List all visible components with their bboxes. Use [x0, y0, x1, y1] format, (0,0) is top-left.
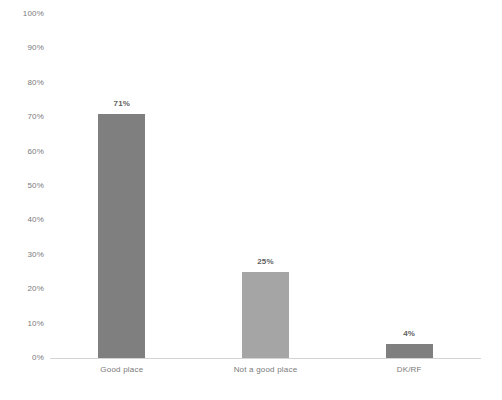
y-axis-tick-label: 20%: [0, 285, 44, 293]
bar-value-label: 71%: [98, 100, 145, 108]
y-axis-tick-label: 70%: [0, 113, 44, 121]
bar-group: 25%: [242, 0, 289, 358]
bar[interactable]: [98, 114, 145, 358]
bar-value-label: 25%: [242, 258, 289, 266]
bar[interactable]: [386, 344, 433, 358]
bar-group: 71%: [98, 0, 145, 358]
x-axis-category-label: Good place: [50, 366, 194, 374]
bar-chart: 0%10%20%30%40%50%60%70%80%90%100% 71%25%…: [0, 0, 502, 400]
y-axis-tick-label: 40%: [0, 216, 44, 224]
x-axis-category-label: Not a good place: [194, 366, 338, 374]
bar[interactable]: [242, 272, 289, 358]
y-axis-tick-label: 50%: [0, 182, 44, 190]
bar-group: 4%: [386, 0, 433, 358]
x-axis-line: [50, 358, 481, 359]
y-axis-tick-label: 10%: [0, 320, 44, 328]
y-axis-tick-label: 0%: [0, 354, 44, 362]
bar-value-label: 4%: [386, 330, 433, 338]
y-axis-tick-label: 60%: [0, 148, 44, 156]
x-axis-category-label: DK/RF: [337, 366, 481, 374]
y-axis-tick-label: 30%: [0, 251, 44, 259]
y-axis-tick-label: 90%: [0, 44, 44, 52]
y-axis-tick-label: 80%: [0, 79, 44, 87]
plot-area: 71%25%4%: [50, 0, 481, 358]
y-axis-tick-label: 100%: [0, 10, 44, 18]
